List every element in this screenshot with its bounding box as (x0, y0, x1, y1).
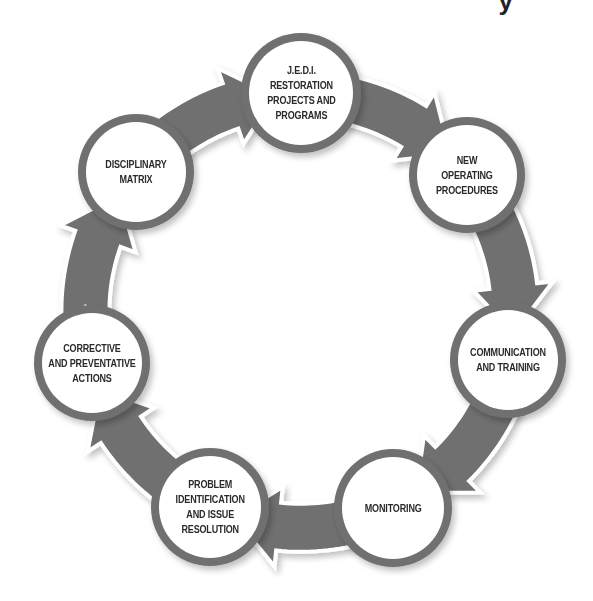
node-label-line: CORRECTIVE (63, 341, 121, 356)
node-label-problem-identification: PROBLEMIDENTIFICATIONAND ISSUERESOLUTION (159, 456, 261, 558)
node-label-line: ACTIONS (72, 371, 111, 386)
node-label-line: COMMUNICATION (470, 345, 546, 360)
node-label-monitoring: MONITORING (342, 457, 444, 559)
node-label-line: PROGRAMS (275, 108, 327, 123)
node-label-line: IDENTIFICATION (175, 492, 244, 507)
node-label-line: RESOLUTION (181, 522, 239, 537)
node-label-line: AND TRAINING (476, 360, 540, 375)
node-label-line: OPERATING (441, 168, 492, 183)
node-label-new-operating-procedures: NEWOPERATINGPROCEDURES (417, 125, 517, 225)
node-label-line: RESTORATION (269, 78, 332, 93)
node-label-jedi: J.E.D.I.RESTORATIONPROJECTS ANDPROGRAMS (249, 41, 353, 145)
title-fragment: y (499, 0, 513, 17)
node-label-line: PROBLEM (188, 477, 232, 492)
node-label-line: AND PREVENTATIVE (48, 356, 135, 371)
node-label-line: NEW (457, 153, 478, 168)
node-label-line: J.E.D.I. (287, 63, 316, 78)
node-label-line: DISCIPLINARY (105, 157, 166, 172)
node-label-line: MATRIX (120, 172, 153, 187)
node-label-line: MONITORING (365, 501, 422, 516)
node-label-line: PROJECTS AND (267, 93, 335, 108)
node-label-line: AND ISSUE (186, 507, 234, 522)
node-label-line: PROCEDURES (436, 183, 498, 198)
node-label-corrective-and-preventative-actions: CORRECTIVEAND PREVENTATIVEACTIONS (42, 313, 142, 413)
node-label-disciplinary-matrix: DISCIPLINARYMATRIX (86, 122, 186, 222)
node-label-communication-and-training: COMMUNICATIONAND TRAINING (458, 310, 558, 410)
cycle-diagram: y J.E.D.I.RESTORATIONPROJECTS ANDPROGRAM… (0, 0, 593, 601)
